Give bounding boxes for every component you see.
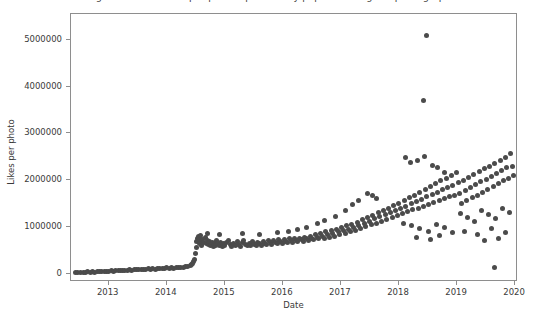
plot-area (70, 13, 517, 281)
x-axis-tick-label: 2015 (213, 287, 235, 297)
scatter-point (489, 174, 494, 179)
scatter-point (428, 237, 433, 242)
x-axis-tick-label: 2016 (271, 287, 293, 297)
scatter-point (257, 232, 262, 237)
x-axis-tick-label: 2017 (329, 287, 351, 297)
scatter-point (384, 217, 389, 222)
scatter-point (450, 230, 455, 235)
scatter-point (315, 221, 320, 226)
scatter-point (286, 229, 291, 234)
x-axis-tick-label: 2018 (387, 287, 409, 297)
scatter-point (489, 226, 494, 231)
scatter-point (465, 215, 470, 220)
scatter-point (414, 235, 419, 240)
y-axis-tick-label: 3000000 (24, 127, 62, 137)
x-axis-tick-label: 2014 (155, 287, 177, 297)
scatter-point (369, 222, 374, 227)
scatter-point (217, 232, 222, 237)
x-axis-tick-label: 2019 (445, 287, 467, 297)
y-axis-tick-label: 5000000 (24, 34, 62, 44)
scatter-point (322, 218, 327, 223)
scatter-point (437, 233, 442, 238)
scatter-point (424, 194, 429, 199)
x-axis-tick (282, 281, 283, 285)
scatter-point (496, 181, 501, 186)
page-title: Average number of likes per photo upload… (0, 0, 534, 2)
scatter-point (484, 177, 489, 182)
scatter-point (464, 198, 469, 203)
y-axis-tick-label: 0 (57, 268, 62, 278)
scatter-point (486, 212, 491, 217)
x-axis-tick (108, 281, 109, 285)
scatter-point (438, 178, 443, 183)
scatter-point (511, 173, 516, 178)
scatter-point (457, 191, 462, 196)
scatter-point (403, 204, 408, 209)
scatter-point (363, 224, 368, 229)
y-axis-tick-label: 4000000 (24, 81, 62, 91)
scatter-point (454, 170, 459, 175)
scatter-point (442, 170, 447, 175)
scatter-point (485, 187, 490, 192)
scatter-point (492, 161, 497, 166)
scatter-point (450, 183, 455, 188)
x-axis-tick-label: 2020 (503, 287, 525, 297)
scatter-point (424, 33, 429, 38)
scatter-point (463, 188, 468, 193)
scatter-point (433, 181, 438, 186)
scatter-point (192, 257, 197, 262)
x-axis-tick (224, 281, 225, 285)
scatter-point (435, 190, 440, 195)
scatter-point (510, 164, 515, 169)
scatter-point (434, 222, 439, 227)
scatter-point (503, 155, 508, 160)
scatter-point (442, 225, 447, 230)
x-axis-tick-label: 2013 (97, 287, 119, 297)
scatter-point (422, 154, 427, 159)
scatter-point (333, 214, 338, 219)
scatter-point (374, 196, 379, 201)
scatter-point (350, 202, 355, 207)
scatter-point (409, 223, 414, 228)
scatter-point (410, 207, 415, 212)
scatter-points-layer (71, 14, 516, 280)
scatter-point (508, 151, 513, 156)
scatter-point (430, 192, 435, 197)
scatter-point (356, 198, 361, 203)
scatter-point (478, 179, 483, 184)
scatter-point (343, 208, 348, 213)
scatter-point (417, 226, 422, 231)
y-axis-tick (66, 39, 70, 40)
y-axis-tick-label: 1000000 (24, 221, 62, 231)
scatter-point (456, 180, 461, 185)
scatter-point (426, 229, 431, 234)
scatter-point (402, 198, 407, 203)
scatter-point (337, 232, 342, 237)
y-axis-label: Likes per photo (6, 92, 16, 212)
scatter-point (417, 190, 422, 195)
y-axis-tick (66, 226, 70, 227)
scatter-point (304, 225, 309, 230)
scatter-point (408, 160, 413, 165)
scatter-point (479, 208, 484, 213)
x-axis-tick (340, 281, 341, 285)
x-axis-tick (398, 281, 399, 285)
scatter-point (390, 215, 395, 220)
x-axis-tick (166, 281, 167, 285)
y-axis-tick (66, 273, 70, 274)
scatter-point (437, 198, 442, 203)
scatter-point (472, 219, 477, 224)
scatter-point (240, 231, 245, 236)
scatter-point (462, 229, 467, 234)
scatter-point (507, 210, 512, 215)
scatter-point (193, 251, 198, 256)
scatter-point (395, 213, 400, 218)
scatter-point (449, 173, 454, 178)
scatter-point (493, 216, 498, 221)
scatter-point (431, 200, 436, 205)
scatter-point (205, 231, 210, 236)
scatter-point (442, 196, 447, 201)
x-axis-tick (456, 281, 457, 285)
scatter-point (365, 191, 370, 196)
scatter-point (482, 238, 487, 243)
